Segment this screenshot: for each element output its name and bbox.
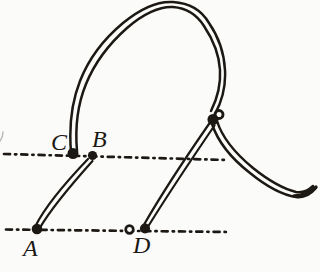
knot-loop-ring	[215, 111, 223, 119]
figure-canvas: C B A D	[0, 0, 320, 272]
label-C: C	[51, 129, 68, 155]
stick-AB-right-stroke	[40, 161, 93, 229]
label-D: D	[132, 232, 150, 258]
tail-curve-outer-stroke	[212, 124, 316, 197]
point-A-dot	[32, 224, 43, 235]
label-A: A	[21, 235, 38, 261]
scanned-diagram: C B A D	[0, 0, 320, 272]
point-C-dot	[68, 148, 79, 159]
stick-D-right-stroke	[148, 126, 215, 228]
stick-AB-left-stroke	[36, 159, 89, 226]
label-B: B	[92, 126, 107, 152]
point-B-dot	[88, 151, 97, 160]
scan-artifact-mark	[0, 132, 3, 141]
stick-D-left-stroke	[144, 123, 211, 226]
